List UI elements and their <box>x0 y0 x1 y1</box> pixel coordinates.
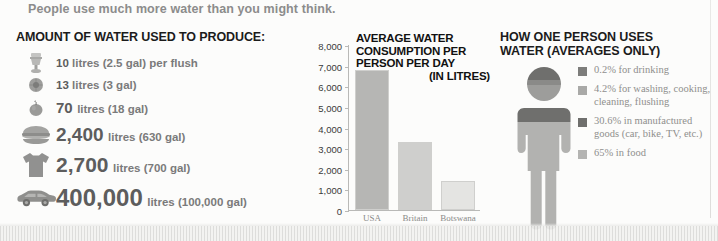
person-body <box>513 106 575 232</box>
y-tick-label: 0 <box>337 206 342 217</box>
x-label-usa: USA <box>363 213 381 223</box>
production-heading: AMOUNT OF WATER USED TO PRODUCE: <box>16 30 308 44</box>
y-tick <box>345 211 349 212</box>
production-unit: litres (100,000 gal) <box>147 196 247 208</box>
production-value: 400,000 <box>56 184 143 211</box>
production-unit: litres (3 gal) <box>72 79 137 91</box>
legend-swatch <box>578 118 587 127</box>
toilet-icon <box>16 52 56 74</box>
usage-heading-line1: HOW ONE PERSON USES <box>500 30 653 44</box>
consumption-chart-section: AVERAGE WATER CONSUMPTION PER PERSON PER… <box>308 30 490 225</box>
legend-swatch <box>578 150 587 159</box>
person-figure <box>508 62 580 232</box>
y-tick-label: 6,000 <box>318 82 342 93</box>
production-value: 2,400 <box>56 124 104 145</box>
production-unit: litres (700 gal) <box>113 162 190 174</box>
list-item-text: 2,400 litres (630 gal) <box>56 124 185 146</box>
list-item: 70 litres (18 gal) <box>16 95 308 120</box>
tshirt-icon <box>16 151 56 179</box>
list-item: 400,000 litres (100,000 gal) <box>16 180 308 216</box>
y-tick-label: 7,000 <box>318 61 342 72</box>
bar-series <box>349 45 480 210</box>
production-unit: litres (2.5 gal) per flush <box>72 57 198 69</box>
list-item-text: 400,000 litres (100,000 gal) <box>56 184 247 212</box>
bar-britain <box>398 142 432 210</box>
production-unit: litres (630 gal) <box>108 131 185 143</box>
bar-usa <box>355 70 389 210</box>
legend-swatch <box>578 67 587 76</box>
legend-swatch <box>578 86 587 95</box>
y-tick-label: 3,000 <box>318 144 342 155</box>
list-item-text: 2,700 litres (700 gal) <box>56 153 190 177</box>
legend-item: 65% in food <box>578 147 712 159</box>
production-section: AMOUNT OF WATER USED TO PRODUCE: 10 litr… <box>16 30 308 216</box>
legend-item: 4.2% for washing, cooking, cleaning, flu… <box>578 83 712 108</box>
y-tick-label: 1,000 <box>318 185 342 196</box>
legend-label: 65% in food <box>594 147 646 159</box>
infographic-page: People use much more water than you migh… <box>0 0 718 241</box>
person-head <box>522 64 566 105</box>
list-item: 13 litres (3 gal) <box>16 74 308 95</box>
chart-title-line1: AVERAGE WATER <box>356 32 453 44</box>
bar-botswana <box>441 181 475 210</box>
production-value: 10 <box>56 57 69 69</box>
legend-item: 0.2% for drinking <box>578 64 712 76</box>
y-tick-label: 8,000 <box>318 41 342 52</box>
usage-heading-line2: WATER (AVERAGES ONLY) <box>500 44 660 58</box>
legend-label: 0.2% for drinking <box>594 64 669 76</box>
list-item: 2,400 litres (630 gal) <box>16 120 308 149</box>
apple-icon <box>16 98 56 118</box>
list-item: 2,700 litres (700 gal) <box>16 149 308 180</box>
y-tick-label: 4,000 <box>318 123 342 134</box>
usage-legend: 0.2% for drinking4.2% for washing, cooki… <box>578 64 712 166</box>
legend-label: 30.6% in manufactured goods (car, bike, … <box>594 115 712 140</box>
list-item-text: 10 litres (2.5 gal) per flush <box>56 57 198 69</box>
x-label-botswana: Botswana <box>440 213 476 223</box>
usage-heading: HOW ONE PERSON USES WATER (AVERAGES ONLY… <box>500 30 712 58</box>
banner-text: People use much more water than you migh… <box>28 2 336 16</box>
hamburger-icon <box>16 124 56 146</box>
list-item-text: 13 litres (3 gal) <box>56 79 137 91</box>
y-tick-label: 5,000 <box>318 102 342 113</box>
production-value: 70 <box>56 99 73 116</box>
production-unit: litres (18 gal) <box>77 103 148 115</box>
bar-chart-plot: 01,0002,0003,0004,0005,0006,0007,0008,00… <box>348 45 480 211</box>
production-value: 2,700 <box>56 153 109 176</box>
y-tick-label: 2,000 <box>318 164 342 175</box>
x-label-britain: Britain <box>403 213 428 223</box>
legend-label: 4.2% for washing, cooking, cleaning, flu… <box>594 83 712 108</box>
egg-icon <box>16 77 56 93</box>
list-item-text: 70 litres (18 gal) <box>56 99 148 117</box>
legend-item: 30.6% in manufactured goods (car, bike, … <box>578 115 712 140</box>
x-axis <box>348 210 480 211</box>
car-icon <box>16 187 56 209</box>
list-item: 10 litres (2.5 gal) per flush <box>16 51 308 74</box>
bottom-texture-strip <box>0 226 718 241</box>
usage-section: HOW ONE PERSON USES WATER (AVERAGES ONLY… <box>500 30 712 58</box>
production-value: 13 <box>56 79 69 91</box>
